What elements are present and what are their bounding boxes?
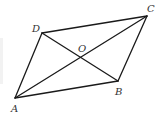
side-da	[15, 33, 42, 98]
geometry-diagram: ABCDO	[0, 0, 164, 121]
side-cd	[42, 16, 147, 33]
vertex-label-d: D	[31, 23, 40, 34]
parallelogram-figure: ABCDO	[0, 0, 164, 121]
side-ab	[15, 81, 118, 98]
vertex-label-a: A	[10, 103, 18, 114]
vertex-label-b: B	[114, 86, 122, 97]
vertex-label-o: O	[78, 43, 86, 54]
vertex-label-c: C	[147, 3, 155, 14]
